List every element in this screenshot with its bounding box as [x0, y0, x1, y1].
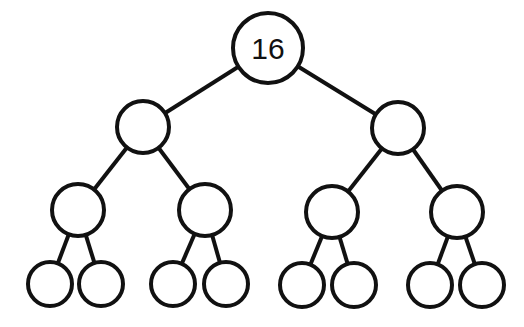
tree-node: [332, 263, 376, 307]
tree-node: [408, 263, 452, 307]
tree-node: [306, 186, 358, 238]
root-node-label: 16: [251, 32, 284, 65]
binary-tree-diagram: 16: [0, 0, 524, 327]
tree-node: [460, 263, 504, 307]
tree-node: [52, 184, 104, 236]
tree-node: [28, 262, 72, 306]
tree-node: [117, 101, 169, 153]
tree-node: [431, 186, 483, 238]
tree-node: [151, 262, 195, 306]
tree-node: [372, 102, 424, 154]
tree-node: [280, 263, 324, 307]
tree-node: [179, 184, 231, 236]
tree-node: [79, 262, 123, 306]
tree-node: [204, 262, 248, 306]
